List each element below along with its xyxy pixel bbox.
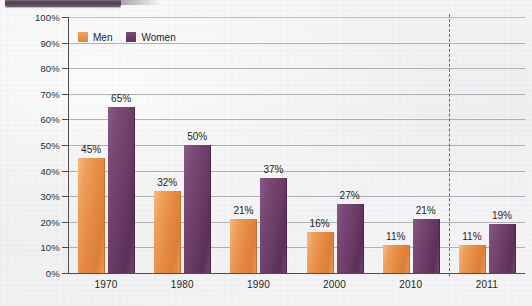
y-axis-tick <box>62 17 68 18</box>
x-axis-label-2010: 2010 <box>373 279 449 290</box>
x-axis-label-2000: 2000 <box>297 279 373 290</box>
bar-chart: Percentage 100%90%80%70%60%50%40%30%20%1… <box>0 0 532 306</box>
bar-value-label: 32% <box>157 177 177 188</box>
y-axis-tick <box>62 94 68 95</box>
bar-women-2000[interactable] <box>337 204 364 273</box>
y-axis-tick-label: 50% <box>20 140 60 151</box>
bar-value-label: 16% <box>310 218 330 229</box>
x-axis-label-1980: 1980 <box>144 279 220 290</box>
y-axis-tick-label: 40% <box>20 165 60 176</box>
x-axis-label-1990: 1990 <box>220 279 296 290</box>
bar-value-label: 37% <box>263 164 283 175</box>
x-axis-label-2011: 2011 <box>449 279 525 290</box>
bar-value-label: 19% <box>492 210 512 221</box>
y-axis-tick-label: 80% <box>20 63 60 74</box>
y-axis-tick-label: 20% <box>20 216 60 227</box>
y-axis-tick <box>62 68 68 69</box>
bar-women-1990[interactable] <box>260 178 287 273</box>
bar-value-label: 45% <box>81 144 101 155</box>
y-axis-tick-label: 100% <box>20 12 60 23</box>
bar-men-2010[interactable] <box>383 245 410 273</box>
y-axis-tick <box>62 222 68 223</box>
y-axis-tick-label: 70% <box>20 88 60 99</box>
y-axis-tick <box>62 145 68 146</box>
bar-value-label: 21% <box>416 205 436 216</box>
y-axis-tick-label: 0% <box>20 268 60 279</box>
bar-men-1980[interactable] <box>154 191 181 273</box>
y-axis-tick-label: 10% <box>20 242 60 253</box>
bar-women-2011[interactable] <box>489 224 516 273</box>
y-axis-tick <box>62 171 68 172</box>
y-axis-tick <box>62 43 68 44</box>
x-axis-line <box>68 273 525 274</box>
y-axis-tick-label: 30% <box>20 191 60 202</box>
bar-value-label: 65% <box>111 93 131 104</box>
y-axis-tick <box>62 119 68 120</box>
series-break-divider <box>449 14 450 276</box>
bar-women-2010[interactable] <box>413 219 440 273</box>
y-axis-tick-label: 60% <box>20 114 60 125</box>
bar-value-label: 50% <box>187 131 207 142</box>
bar-men-2000[interactable] <box>307 232 334 273</box>
bar-value-label: 11% <box>462 231 481 242</box>
bar-women-1980[interactable] <box>184 145 211 273</box>
bar-men-1990[interactable] <box>230 219 257 273</box>
bar-men-2011[interactable] <box>459 245 486 273</box>
y-axis-tick-label: 90% <box>20 37 60 48</box>
bar-men-1970[interactable] <box>78 158 105 273</box>
bar-groups: 45%65%32%50%21%37%16%27%11%21%11%19% <box>68 17 525 273</box>
bar-value-label: 11% <box>386 231 405 242</box>
y-axis-labels: 100%90%80%70%60%50%40%30%20%10%0% <box>16 17 60 273</box>
y-axis-tick <box>62 247 68 248</box>
bar-value-label: 21% <box>233 205 253 216</box>
x-axis-label-1970: 1970 <box>68 279 144 290</box>
y-axis-tick <box>62 196 68 197</box>
y-axis-tick <box>62 273 68 274</box>
bar-value-label: 27% <box>340 190 360 201</box>
bar-women-1970[interactable] <box>108 107 135 273</box>
